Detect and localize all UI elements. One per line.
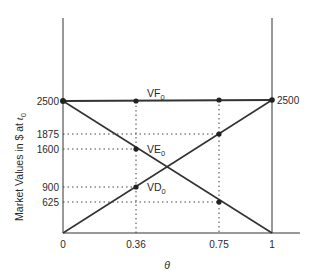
right-y-tick-label: 2500 [277, 95, 300, 106]
series-label-vf0: VF0 [147, 87, 165, 102]
y-tick-label: 900 [42, 182, 59, 193]
x-tick-label: 1 [269, 239, 275, 250]
series-label-vd0: VD0 [147, 181, 166, 196]
x-tick-label: 0.36 [126, 239, 146, 250]
reference-lines [63, 100, 219, 233]
y-tick-label: 2500 [37, 96, 60, 107]
y-tick-label: 625 [42, 197, 59, 208]
x-tick-label: 0 [60, 239, 66, 250]
data-points [60, 97, 275, 204]
chart: VF0 VE0 VD0 2500 1875 1600 900 625 2500 … [0, 0, 309, 279]
x-tick-label: 0.75 [209, 239, 229, 250]
y-tick-label: 1875 [37, 129, 60, 140]
series-vf0-line [63, 100, 272, 101]
y-tick-label: 1600 [37, 144, 60, 155]
y-axis-label: Market Values in $ at t0 [13, 113, 28, 221]
x-axis-label: θ [164, 259, 170, 271]
